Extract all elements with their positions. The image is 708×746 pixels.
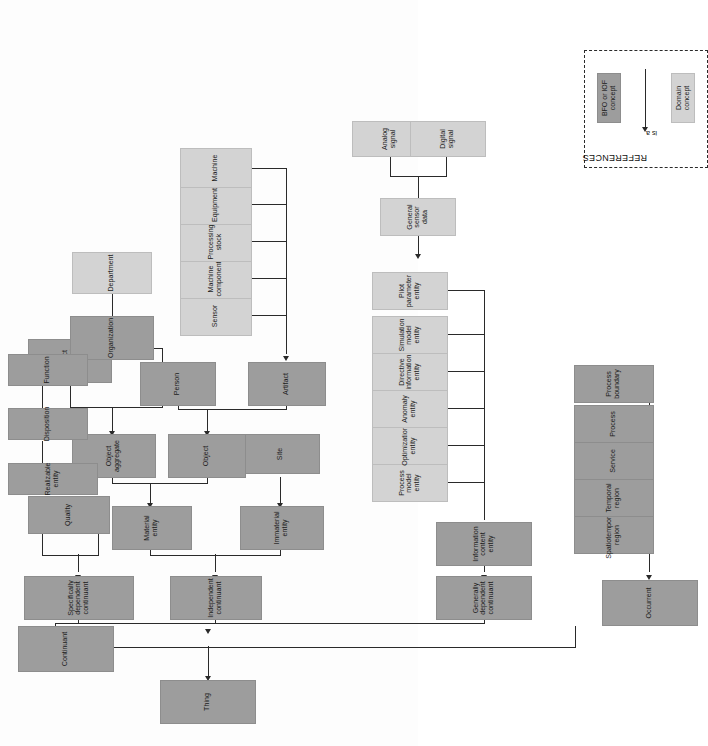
legend-arrow-head [642,127,648,132]
node-machine[interactable]: Machine [180,148,252,188]
connector [42,441,43,463]
legend-arrow-line [645,69,646,127]
connector [286,168,287,354]
connector [42,386,43,408]
node-immaterial-entity[interactable]: Immaterial entity [240,506,324,550]
node-process[interactable]: Process [574,405,654,443]
connector [215,554,216,572]
connector [42,555,98,556]
connector [70,386,71,408]
connector [150,483,151,503]
legend-swatch-domain: Domain concept [671,73,695,123]
node-independent-continuant[interactable]: Independent continuant [170,576,262,620]
node-spatiotemporal-region[interactable]: Spatiotemporal region [574,516,654,554]
node-quality[interactable]: Quality [28,496,110,534]
node-simulation-model-entity[interactable]: Simulation model entity [372,316,448,354]
node-realizable-entity[interactable]: Realizable entity [8,463,98,495]
node-information-content-entity[interactable]: Information content entity [436,522,532,566]
node-service[interactable]: Service [574,442,654,480]
node-function[interactable]: Function [8,354,88,386]
node-anomaly-entity[interactable]: Anomaly entity [372,390,448,428]
connector [112,483,207,484]
connector [447,408,485,409]
legend-title: REFERENCES [582,153,647,163]
connector [447,371,485,372]
node-thing[interactable]: Thing [160,680,256,724]
node-site[interactable]: Site [242,434,320,474]
connector [280,477,281,503]
connector [250,168,287,169]
connector [418,176,419,198]
node-digital-signal[interactable]: Digital signal [410,121,486,157]
connector [390,176,446,177]
node-optimization-entity[interactable]: Optimization entity [372,427,448,465]
node-occurrent[interactable]: Occurrent [602,580,698,626]
connector [447,334,485,335]
connector [250,241,287,242]
connector [447,482,485,483]
connector [208,646,209,676]
connector [55,623,485,624]
node-object[interactable]: Object [168,434,246,478]
node-material-entity[interactable]: Material entity [112,506,192,550]
node-equipment[interactable]: Equipment [180,185,252,225]
node-pilot-parameter-entity[interactable]: Pilot parameter entity [372,272,448,310]
connector [112,407,113,431]
connector [55,647,575,648]
node-directive-information-entity[interactable]: Directive information entity [372,353,448,391]
connector [42,534,43,556]
node-disposition[interactable]: Disposition [8,408,88,440]
connector [250,204,287,205]
node-department[interactable]: Department [72,252,152,294]
connector [207,409,208,431]
node-sensor[interactable]: Sensor [180,296,252,336]
connector [250,278,287,279]
node-person[interactable]: Person [140,362,216,406]
node-process-boundary[interactable]: Process boundary [574,365,654,403]
connector [112,294,113,316]
connector [78,554,79,572]
node-temporal-region[interactable]: Temporal region [574,479,654,517]
arrow-head [205,629,211,634]
connector [178,409,286,410]
node-continuant[interactable]: Continuant [18,626,114,672]
node-specifically-dependent-continuant[interactable]: Specifically dependent continuant [24,576,134,620]
connector [447,445,485,446]
connector [484,290,485,520]
connector [446,157,447,177]
connector [447,290,485,291]
node-machine-component[interactable]: Machine component [180,259,252,299]
legend-swatch-bfo: BFO or IOF concept [597,73,621,123]
legend-panel: REFERENCES is a BFO or IOF concept Domai… [584,50,708,168]
node-artifact[interactable]: Artifact [248,362,326,406]
arrow-head [415,254,421,259]
connector [250,315,287,316]
connector [390,157,391,177]
connector [575,626,576,648]
node-general-sensor-data[interactable]: General sensor data [380,198,456,236]
node-process-model-entity[interactable]: Process model entity [372,464,448,502]
node-processing-stock[interactable]: Processing stock [180,222,252,262]
arrow-head [283,356,289,361]
node-generally-dependent-continuant[interactable]: Generally dependent continuant [436,576,532,620]
